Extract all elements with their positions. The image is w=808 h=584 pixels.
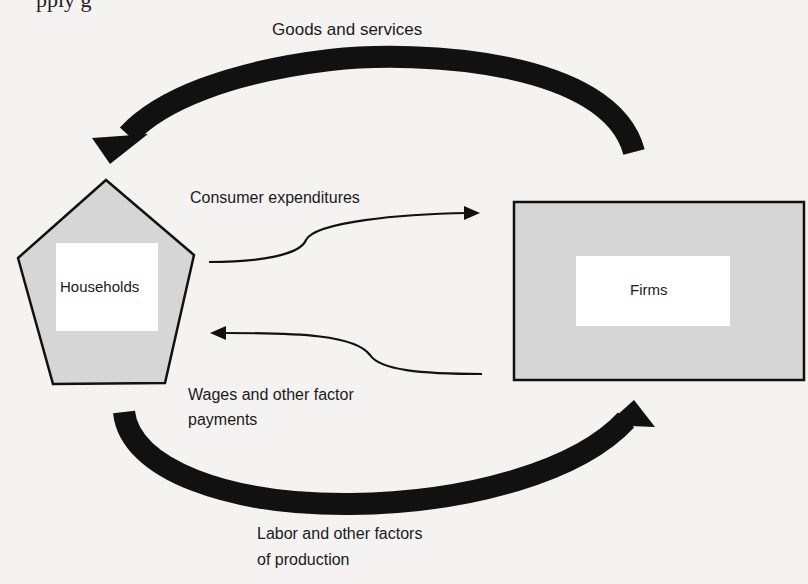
goods-services-arrowhead [92,134,148,164]
wages-arrow [224,333,482,374]
labor-arrowhead [606,400,655,427]
wages-arrowhead [210,326,226,340]
wages-label-line2: payments [188,410,257,430]
wages-label-line1: Wages and other factor [188,385,354,405]
firms-label: Firms [630,280,668,300]
consumer-expenditures-arrowhead [464,206,480,220]
labor-label-line2: of production [257,550,350,570]
goods-services-arrow [128,57,634,152]
goods-services-label: Goods and services [272,20,422,40]
consumer-expenditures-arrow [209,213,468,262]
households-label: Households [60,277,139,297]
consumer-expenditures-label: Consumer expenditures [190,188,360,208]
labor-label-line1: Labor and other factors [257,524,422,544]
